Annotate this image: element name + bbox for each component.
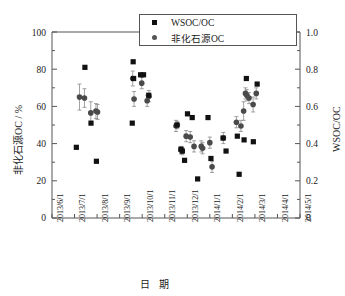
data-point-wsoc <box>244 76 249 81</box>
x-tick-label: 2014/5/1 <box>304 194 313 222</box>
data-point-wsoc <box>190 115 195 120</box>
legend-label-nonfossil: 非化石源OC <box>171 31 224 45</box>
data-point-nonfossil <box>250 102 256 108</box>
data-point-wsoc <box>88 121 93 126</box>
data-point-wsoc <box>82 65 87 70</box>
data-point-nonfossil <box>238 123 244 129</box>
data-point-wsoc <box>223 148 228 153</box>
data-point-nonfossil <box>77 94 83 100</box>
x-tick-label: 2013/11/1 <box>168 190 177 222</box>
data-point-wsoc <box>141 72 146 77</box>
data-point-nonfossil <box>241 108 247 114</box>
chart-figure: 非化石源OC / % WSOC/OC 日 期 0 20 40 60 80 100… <box>0 0 345 296</box>
x-tick-label: 2013/7/1 <box>78 194 87 222</box>
data-point-wsoc <box>241 137 246 142</box>
data-point-nonfossil <box>234 119 240 125</box>
data-point-wsoc <box>205 115 210 120</box>
data-point-wsoc <box>255 81 260 86</box>
circle-marker-icon <box>152 35 157 40</box>
data-point-nonfossil <box>131 96 137 102</box>
data-point-wsoc <box>251 139 256 144</box>
data-point-nonfossil <box>187 134 193 140</box>
legend-entry-wsoc: WSOC/OC <box>140 15 296 30</box>
x-tick-label: 2013/12/1 <box>191 190 200 222</box>
data-point-wsoc <box>130 121 135 126</box>
x-tick-label: 2013/8/1 <box>101 194 110 222</box>
data-point-wsoc <box>131 76 136 81</box>
data-point-nonfossil <box>246 95 252 101</box>
x-tick-label: 2014/2/1 <box>236 194 245 222</box>
x-tick-label: 2013/6/1 <box>56 194 65 222</box>
data-point-nonfossil <box>139 80 145 86</box>
x-tick-label: 2013/10/1 <box>146 190 155 222</box>
data-point-wsoc <box>195 176 200 181</box>
data-point-wsoc <box>185 111 190 116</box>
data-point-wsoc <box>180 148 185 153</box>
data-point-nonfossil <box>95 109 101 115</box>
data-point-wsoc <box>94 159 99 164</box>
data-point-nonfossil <box>253 91 259 97</box>
data-point-nonfossil <box>200 145 206 151</box>
data-point-wsoc <box>235 134 240 139</box>
x-tick-label: 2014/4/1 <box>281 194 290 222</box>
data-point-nonfossil <box>82 95 88 101</box>
x-tick-label: 2014/1/1 <box>213 194 222 222</box>
data-point-wsoc <box>182 158 187 163</box>
data-point-nonfossil <box>191 144 197 150</box>
error-bars <box>78 71 259 172</box>
legend-entry-nonfossil: 非化石源OC <box>140 30 296 45</box>
data-point-wsoc <box>146 93 151 98</box>
data-point-wsoc <box>208 156 213 161</box>
series-nonfossil-oc-points <box>77 76 259 170</box>
data-point-nonfossil <box>207 140 213 146</box>
x-tick-label: 2014/3/1 <box>258 194 267 222</box>
chart-legend: WSOC/OC 非化石源OC <box>139 14 297 46</box>
legend-label-wsoc: WSOC/OC <box>171 18 214 28</box>
square-marker-icon <box>152 20 157 25</box>
data-point-wsoc <box>74 145 79 150</box>
data-point-nonfossil <box>88 110 94 116</box>
x-tick-label: 2013/9/1 <box>123 194 132 222</box>
data-point-wsoc <box>131 59 136 64</box>
data-point-wsoc <box>221 135 226 140</box>
series-wsoc-oc-points <box>74 59 260 181</box>
data-point-nonfossil <box>209 164 215 170</box>
data-point-wsoc <box>237 172 242 177</box>
data-point-wsoc <box>174 122 179 127</box>
